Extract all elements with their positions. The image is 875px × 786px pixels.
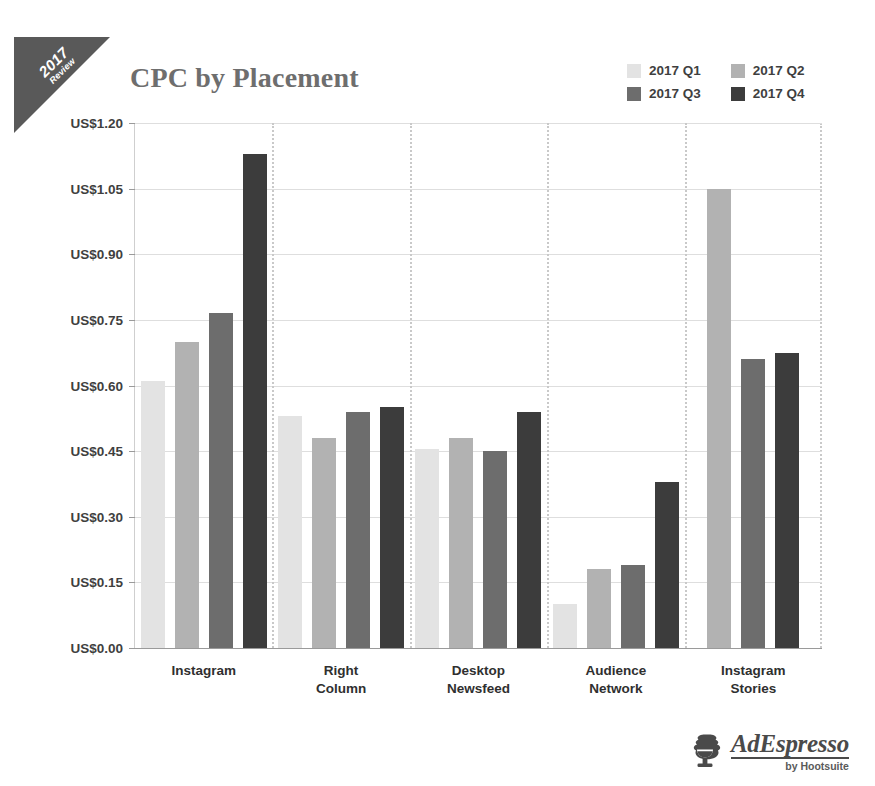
chart-legend: 2017 Q12017 Q22017 Q32017 Q4 <box>627 63 805 101</box>
bar[interactable] <box>707 189 731 648</box>
bar[interactable] <box>553 604 577 648</box>
legend-item[interactable]: 2017 Q3 <box>627 86 701 101</box>
legend-item[interactable]: 2017 Q1 <box>627 63 701 78</box>
y-gridline <box>135 648 822 649</box>
bar-group: Audience Network <box>547 123 684 648</box>
bar[interactable] <box>449 438 473 648</box>
bar[interactable] <box>175 342 199 648</box>
brand-tagline: by Hootsuite <box>731 761 849 772</box>
bar[interactable] <box>209 313 233 648</box>
x-axis-category-label: Desktop Newsfeed <box>447 662 510 698</box>
brand-logo: AdEspresso by Hootsuite <box>688 731 849 772</box>
y-axis-tick-label: US$0.90 <box>70 247 123 262</box>
bar[interactable] <box>655 482 679 648</box>
espresso-cup-icon <box>688 733 722 769</box>
y-axis-tick-label: US$0.60 <box>70 378 123 393</box>
legend-item[interactable]: 2017 Q2 <box>731 63 805 78</box>
x-axis-category-label: Instagram Stories <box>721 662 786 698</box>
brand-name: AdEspresso <box>731 731 849 759</box>
bar-group: Right Column <box>272 123 409 648</box>
y-axis-tick-label: US$0.30 <box>70 509 123 524</box>
legend-label: 2017 Q4 <box>753 86 805 101</box>
legend-swatch <box>627 87 641 101</box>
bar-group: Desktop Newsfeed <box>410 123 547 648</box>
legend-swatch <box>731 87 745 101</box>
y-axis-tick-label: US$1.20 <box>70 116 123 131</box>
legend-item[interactable]: 2017 Q4 <box>731 86 805 101</box>
legend-label: 2017 Q1 <box>649 63 701 78</box>
y-axis-tick-label: US$0.00 <box>70 641 123 656</box>
y-axis-tick-label: US$0.75 <box>70 312 123 327</box>
bar[interactable] <box>141 381 165 648</box>
bar-group: Instagram <box>135 123 272 648</box>
y-axis-tick-label: US$1.05 <box>70 181 123 196</box>
x-axis-category-label: Right Column <box>316 662 366 698</box>
y-tick-mark <box>129 648 135 649</box>
bar-group: Instagram Stories <box>685 123 822 648</box>
bar[interactable] <box>621 565 645 648</box>
bar[interactable] <box>278 416 302 648</box>
legend-label: 2017 Q2 <box>753 63 805 78</box>
bar[interactable] <box>415 449 439 648</box>
y-axis-tick-label: US$0.45 <box>70 444 123 459</box>
bar[interactable] <box>312 438 336 648</box>
bar[interactable] <box>741 359 765 648</box>
plot-area: US$1.20US$1.05US$0.90US$0.75US$0.60US$0.… <box>134 123 822 648</box>
bar[interactable] <box>380 407 404 648</box>
chart-title: CPC by Placement <box>130 62 359 94</box>
brand-wordmark: AdEspresso by Hootsuite <box>731 731 849 772</box>
bar[interactable] <box>483 451 507 648</box>
x-axis-category-label: Audience Network <box>585 662 646 698</box>
bar[interactable] <box>775 353 799 648</box>
bar[interactable] <box>243 154 267 648</box>
y-axis-tick-label: US$0.15 <box>70 575 123 590</box>
legend-swatch <box>627 64 641 78</box>
bar[interactable] <box>346 412 370 648</box>
bar[interactable] <box>587 569 611 648</box>
bar[interactable] <box>517 412 541 648</box>
x-axis-category-label: Instagram <box>171 662 236 680</box>
legend-label: 2017 Q3 <box>649 86 701 101</box>
legend-swatch <box>731 64 745 78</box>
